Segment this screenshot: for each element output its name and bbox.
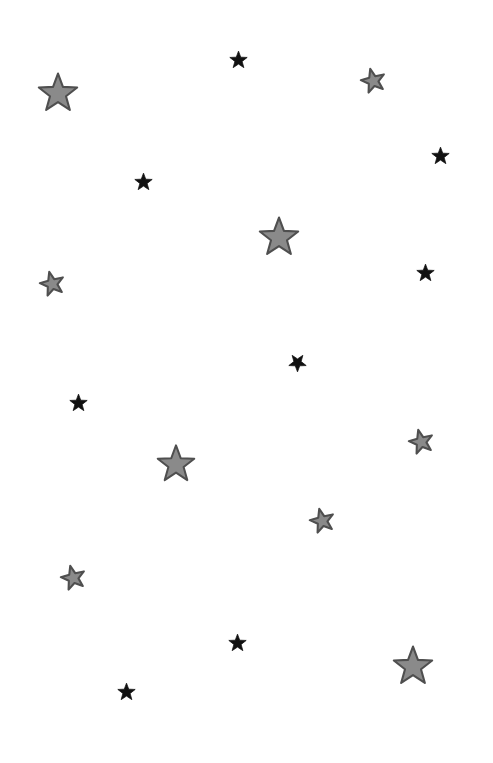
- small-black-star-icon: [288, 354, 307, 373]
- small-gray-star-icon: [405, 425, 437, 457]
- small-gray-star-icon: [36, 267, 68, 299]
- small-black-star-icon: [117, 682, 136, 701]
- small-black-star-icon: [228, 633, 247, 652]
- large-gray-star-icon: [392, 644, 434, 686]
- large-gray-star-icon: [156, 443, 196, 483]
- small-black-star-icon: [416, 263, 435, 282]
- small-gray-star-icon: [306, 504, 338, 536]
- small-black-star-icon: [134, 172, 153, 191]
- small-black-star-icon: [69, 393, 88, 412]
- small-black-star-icon: [229, 50, 248, 69]
- star-pattern-canvas: [0, 0, 493, 763]
- small-black-star-icon: [431, 146, 450, 165]
- small-gray-star-icon: [57, 561, 89, 593]
- small-gray-star-icon: [357, 64, 389, 96]
- large-gray-star-icon: [37, 71, 79, 113]
- large-gray-star-icon: [258, 215, 300, 257]
